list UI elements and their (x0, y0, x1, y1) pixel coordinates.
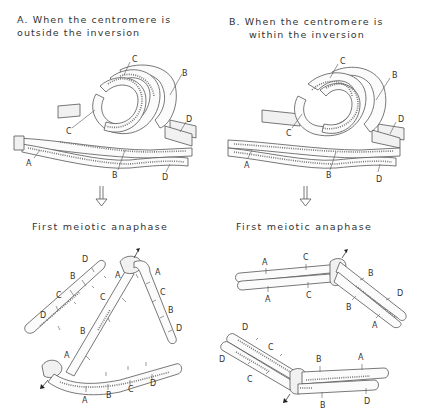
label: B (368, 269, 374, 278)
panel-b-upper-chromatids (236, 259, 407, 328)
label: A (372, 321, 378, 330)
label: A (155, 268, 161, 277)
label: B (182, 69, 188, 78)
label: D (397, 289, 403, 298)
panel-b-lower-chromatids (221, 334, 389, 398)
label: D (186, 115, 192, 124)
label: A (265, 295, 271, 304)
label: D (242, 323, 248, 332)
label: D (364, 397, 370, 406)
label: B (316, 355, 322, 364)
label: B (70, 272, 76, 281)
panel-a-acentric-fragment (25, 260, 106, 333)
label: C (56, 291, 62, 300)
panel-a-pole-arrow-icon-top (134, 248, 140, 258)
panel-a-down-arrow-icon (96, 186, 107, 206)
label: A (82, 396, 88, 405)
label: A (358, 353, 364, 362)
label: A (115, 271, 121, 280)
label: D (40, 311, 46, 320)
label: B (168, 306, 174, 315)
label: A (64, 351, 70, 360)
panel-a-inversion-loop (14, 65, 196, 168)
label: D (398, 115, 404, 124)
panel-b-pole-arrow-icon-bottom (283, 394, 290, 403)
label: C (268, 343, 274, 352)
label: C (303, 253, 309, 262)
panel-b-inversion-loop (228, 67, 404, 168)
label: D (219, 355, 225, 364)
label: D (176, 324, 182, 333)
label: C (66, 127, 72, 136)
label: D (82, 255, 88, 264)
panel-b-lower-labels: D C D C B A B D (219, 323, 370, 410)
label: A (26, 159, 32, 168)
label: C (340, 57, 346, 66)
label: B (112, 171, 118, 180)
label: B (326, 171, 332, 180)
label: C (100, 293, 106, 302)
label: A (244, 161, 250, 170)
label: A (262, 258, 268, 267)
label: C (128, 385, 134, 394)
label: D (376, 175, 382, 184)
panel-b-down-arrow-icon (300, 186, 311, 206)
label: D (150, 379, 156, 388)
panel-a-pole-arrow-icon-bottom (40, 380, 48, 389)
label: B (80, 327, 86, 336)
label: B (106, 391, 112, 400)
label: C (160, 288, 166, 297)
panel-a-dicentric-bridge (42, 256, 182, 395)
label: B (320, 401, 326, 410)
label: C (132, 55, 138, 64)
label: B (346, 303, 352, 312)
label: B (392, 71, 398, 80)
label: C (247, 375, 253, 384)
label: C (286, 129, 292, 138)
diagram-canvas: C B C D A B D C B C D A (0, 0, 423, 413)
label: C (306, 291, 312, 300)
panel-b-pole-arrow-icon-top (342, 249, 348, 258)
label: D (162, 173, 168, 182)
